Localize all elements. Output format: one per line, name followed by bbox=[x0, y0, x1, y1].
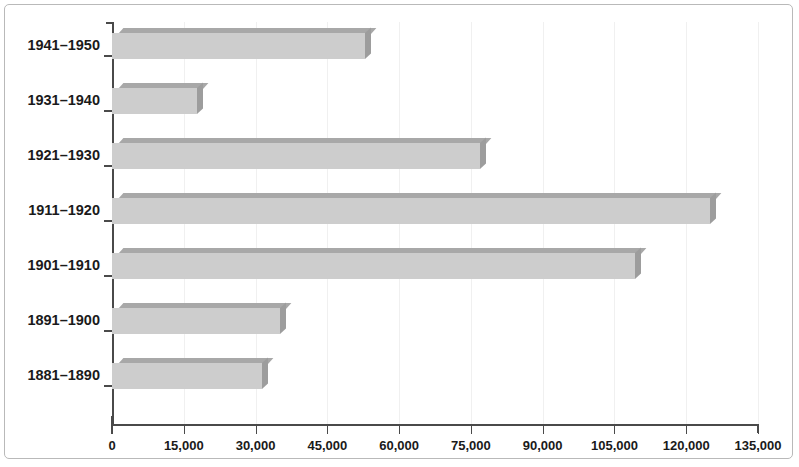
bar-side-face bbox=[280, 303, 286, 334]
x-axis-tick bbox=[327, 426, 328, 434]
bar-side-face bbox=[710, 193, 716, 224]
y-axis-category-label: 1941–1950 bbox=[0, 37, 100, 53]
x-axis-tick bbox=[758, 426, 759, 434]
bar-side-face bbox=[197, 83, 203, 114]
x-axis-tick bbox=[614, 426, 615, 434]
bar-side-face bbox=[262, 358, 268, 389]
bar-side-face bbox=[635, 248, 641, 279]
bar bbox=[112, 303, 287, 337]
bar-front-face bbox=[112, 143, 480, 169]
bar bbox=[112, 358, 269, 392]
x-axis-tick bbox=[111, 416, 113, 434]
x-axis-tick-label: 135,000 bbox=[735, 438, 782, 453]
x-axis-tick-label: 45,000 bbox=[307, 438, 347, 453]
x-axis-tick bbox=[184, 426, 185, 434]
x-axis-tick-label: 90,000 bbox=[523, 438, 563, 453]
x-axis-tick bbox=[399, 426, 400, 434]
bar bbox=[112, 138, 487, 172]
x-axis-tick-label: 75,000 bbox=[451, 438, 491, 453]
x-axis-tick-label: 15,000 bbox=[164, 438, 204, 453]
y-axis-category-label: 1931–1940 bbox=[0, 92, 100, 108]
bar bbox=[112, 28, 372, 62]
gridline bbox=[758, 22, 759, 425]
x-axis-tick-label: 120,000 bbox=[663, 438, 710, 453]
y-axis-category-label: 1881–1890 bbox=[0, 367, 100, 383]
bar-side-face bbox=[365, 28, 371, 59]
y-axis-category-label: 1921–1930 bbox=[0, 147, 100, 163]
x-axis-tick-label: 105,000 bbox=[591, 438, 638, 453]
x-axis-tick-label: 60,000 bbox=[379, 438, 419, 453]
x-axis-tick bbox=[686, 426, 687, 434]
bar-front-face bbox=[112, 363, 262, 389]
bar-side-face bbox=[480, 138, 486, 169]
bar bbox=[112, 248, 642, 282]
x-axis-tick bbox=[471, 426, 472, 434]
x-axis-tick-label: 30,000 bbox=[236, 438, 276, 453]
bar-front-face bbox=[112, 253, 635, 279]
bar-chart-figure: 1941–19501931–19401921–19301911–19201901… bbox=[0, 0, 799, 467]
y-axis-category-label: 1891–1900 bbox=[0, 312, 100, 328]
bar bbox=[112, 83, 204, 117]
bar-front-face bbox=[112, 33, 365, 59]
x-axis-tick bbox=[256, 426, 257, 434]
x-axis-line bbox=[112, 424, 759, 426]
bar-front-face bbox=[112, 88, 197, 114]
y-axis-category-label: 1911–1920 bbox=[0, 202, 100, 218]
bar-front-face bbox=[112, 198, 710, 224]
y-axis-category-label: 1901–1910 bbox=[0, 257, 100, 273]
bar-front-face bbox=[112, 308, 280, 334]
bar bbox=[112, 193, 717, 227]
x-axis-tick-label: 0 bbox=[108, 438, 115, 453]
x-axis-tick bbox=[543, 426, 544, 434]
